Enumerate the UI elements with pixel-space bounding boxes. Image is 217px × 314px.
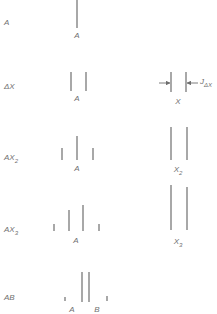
row-AX3: AX3AX3 (3, 185, 187, 248)
spectrum-x: X3 (171, 185, 187, 248)
spectrum-x: XJΔX (159, 72, 213, 106)
spectrum-a: A (62, 136, 93, 173)
row-label: AX2 (3, 153, 19, 164)
peak-label: B (94, 305, 100, 314)
spectrum-x: X2 (171, 127, 187, 176)
spectrum-a: A (54, 205, 99, 245)
peak-label: X3 (173, 237, 183, 248)
peak-label: A (68, 305, 74, 314)
row-AB: ABAB (3, 272, 107, 314)
peak-label: X2 (173, 165, 183, 176)
peak-label: A (73, 164, 79, 173)
coupling-constant-label: JΔX (199, 77, 213, 88)
peak-label: X (174, 97, 181, 106)
row-label: AB (3, 293, 15, 302)
row-label: A (3, 18, 9, 27)
row-AX: ΔXAXJΔX (3, 72, 213, 106)
row-AX2: AX2AX2 (3, 127, 187, 176)
peak-label: A (73, 94, 79, 103)
row-A: AA (3, 0, 80, 40)
row-label: AX3 (3, 225, 19, 236)
peak-label: A (73, 31, 79, 40)
spectrum-a: AB (65, 272, 107, 314)
spectrum-a: A (71, 72, 86, 103)
row-label: ΔX (3, 82, 15, 91)
peak-label: A (72, 236, 78, 245)
diagram-rows: AAΔXAXJΔXAX2AX2AX3AX3ABAB (3, 0, 213, 314)
spectrum-a: A (73, 0, 79, 40)
nmr-splitting-diagram: AAΔXAXJΔXAX2AX2AX3AX3ABAB (0, 0, 217, 314)
